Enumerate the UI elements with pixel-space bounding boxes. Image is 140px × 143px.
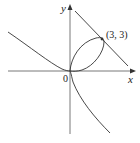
- folium-left-branch: [8, 32, 70, 71]
- tangent-point-marker: [101, 38, 104, 41]
- y-axis-arrow-icon: [68, 4, 73, 10]
- point-label: (3, 3): [106, 30, 128, 40]
- folium-loop: [70, 38, 104, 72]
- folium-lower-branch: [70, 71, 110, 133]
- y-axis-label: y: [61, 3, 66, 14]
- x-axis-label: x: [128, 74, 133, 85]
- origin-label: 0: [63, 74, 68, 84]
- folium-plot: [0, 0, 140, 143]
